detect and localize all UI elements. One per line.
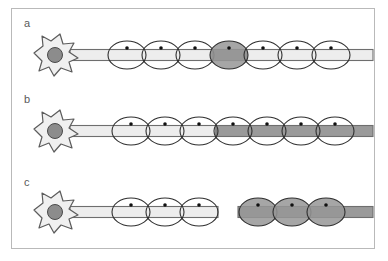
panel-b-soma-nucleus bbox=[48, 124, 63, 139]
panel-a-label: a bbox=[24, 17, 31, 29]
panel-c-sheath-nucleus-3 bbox=[197, 203, 201, 207]
panel-c-sheath-3-light bbox=[180, 198, 218, 226]
panel-c-sheath-5-dark bbox=[273, 198, 311, 226]
panel-c-sheath-nucleus-5 bbox=[290, 203, 294, 207]
panel-b-sheath-nucleus-6 bbox=[299, 122, 303, 126]
panel-a-sheath-1-light bbox=[108, 41, 146, 69]
panel-a-sheath-3-light bbox=[176, 41, 214, 69]
panel-a-sheath-nucleus-1 bbox=[125, 46, 129, 50]
panel-c-sheath-nucleus-1 bbox=[129, 203, 133, 207]
panel-c-sheath-4-dark bbox=[239, 198, 277, 226]
panel-c-label: c bbox=[24, 176, 30, 188]
panel-a-sheath-6-light bbox=[278, 41, 316, 69]
panel-c-sheath-nucleus-2 bbox=[163, 203, 167, 207]
panel-b-sheath-nucleus-1 bbox=[129, 122, 133, 126]
panel-c-sheath-nucleus-4 bbox=[256, 203, 260, 207]
panel-b-label: b bbox=[24, 93, 30, 105]
panel-c-sheath-6-dark bbox=[307, 198, 345, 226]
panel-a-sheath-4-dark bbox=[210, 41, 248, 69]
panel-a-sheath-5-light bbox=[244, 41, 282, 69]
panel-b-sheath-5-light bbox=[248, 117, 286, 145]
panel-a-sheath-2-light bbox=[142, 41, 180, 69]
panel-a-sheath-nucleus-5 bbox=[261, 46, 265, 50]
panel-b-sheath-nucleus-4 bbox=[231, 122, 235, 126]
panel-a: a bbox=[24, 17, 373, 76]
panel-a-sheath-7-light bbox=[312, 41, 350, 69]
panel-c-soma-nucleus bbox=[48, 205, 63, 220]
panel-a-sheath-nucleus-4 bbox=[227, 46, 231, 50]
panel-a-sheath-nucleus-6 bbox=[295, 46, 299, 50]
panel-b-sheath-3-light bbox=[180, 117, 218, 145]
panel-b-sheath-1-light bbox=[112, 117, 150, 145]
panel-c: c bbox=[24, 176, 373, 233]
panel-a-sheath-nucleus-2 bbox=[159, 46, 163, 50]
panel-b-sheath-6-light bbox=[282, 117, 320, 145]
neuron-diagram: abc bbox=[0, 0, 388, 261]
panel-b-sheath-4-light bbox=[214, 117, 252, 145]
panel-b-sheath-nucleus-2 bbox=[163, 122, 167, 126]
panel-b: b bbox=[24, 93, 373, 152]
panel-c-sheath-nucleus-6 bbox=[324, 203, 328, 207]
panel-a-sheath-nucleus-3 bbox=[193, 46, 197, 50]
panel-b-sheath-2-light bbox=[146, 117, 184, 145]
panel-b-sheath-nucleus-3 bbox=[197, 122, 201, 126]
figure-root: abc bbox=[0, 0, 388, 261]
panel-c-sheath-2-light bbox=[146, 198, 184, 226]
panel-a-sheath-nucleus-7 bbox=[329, 46, 333, 50]
panel-a-soma-nucleus bbox=[48, 48, 63, 63]
panel-b-sheath-nucleus-7 bbox=[333, 122, 337, 126]
panel-b-sheath-7-light bbox=[316, 117, 354, 145]
panel-c-sheath-1-light bbox=[112, 198, 150, 226]
panel-b-sheath-nucleus-5 bbox=[265, 122, 269, 126]
